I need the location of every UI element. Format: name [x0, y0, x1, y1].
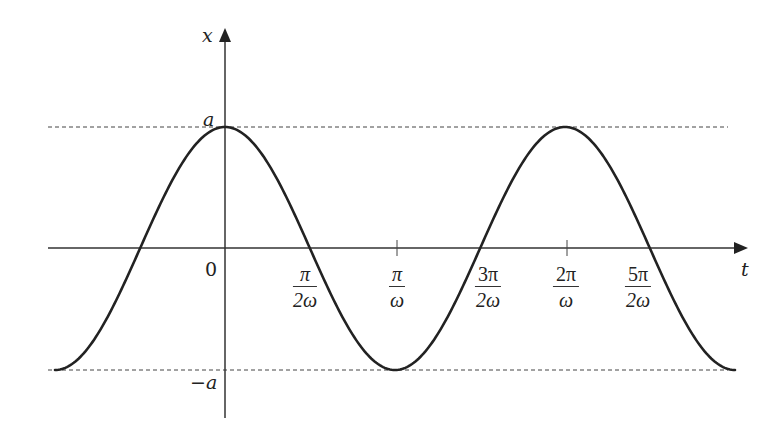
tick-label-pi-over-omega: π ω [389, 264, 405, 310]
tick-label-2pi-over-omega: 2π ω [553, 264, 579, 310]
t-axis-label: t [741, 260, 749, 279]
amplitude-label-negative: −a [190, 373, 217, 392]
x-axis-arrow-icon [219, 28, 231, 42]
tick-label-pi-over-2omega: π 2ω [293, 264, 317, 310]
x-axis-label: x [202, 26, 213, 45]
cosine-graph [0, 0, 780, 434]
t-axis-arrow-icon [734, 242, 748, 254]
tick-label-3pi-over-2omega: 3π 2ω [475, 264, 501, 310]
tick-label-5pi-over-2omega: 5π 2ω [625, 264, 651, 310]
amplitude-label-positive: a [203, 110, 214, 129]
origin-label: 0 [205, 260, 217, 279]
